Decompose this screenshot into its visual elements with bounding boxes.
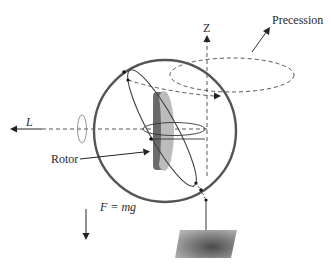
gravity-arrow-icon	[83, 233, 90, 240]
gyroscope-diagram: Z Precession L Rotor F = mg	[0, 0, 331, 269]
z-axis	[204, 35, 211, 176]
precession-arrow-icon	[263, 27, 270, 35]
force-label: F = mg	[99, 200, 136, 214]
l-axis-arrow-icon	[10, 126, 17, 133]
inner-gimbal-horizontal	[143, 123, 205, 140]
rotor-label: Rotor	[51, 152, 78, 166]
rotor-pointer-arrow-icon	[143, 149, 150, 156]
precession-label: Precession	[272, 13, 323, 27]
gravity-arrow	[83, 209, 90, 240]
stand	[175, 183, 237, 258]
precession-arrow	[252, 27, 270, 52]
stand-base	[175, 230, 237, 258]
z-axis-label: Z	[203, 21, 210, 35]
spin-arrow-icon	[214, 93, 221, 100]
angular-momentum-label: L	[25, 115, 33, 129]
z-axis-arrow-icon	[204, 35, 211, 42]
rotor-pointer	[80, 149, 150, 160]
